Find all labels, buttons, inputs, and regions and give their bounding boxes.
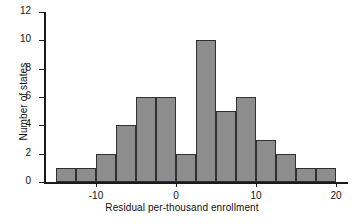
plot-area: 024681012 -1001020 — [44, 12, 348, 184]
y-tick-label: 2 — [25, 147, 31, 158]
y-tick: 0 — [39, 182, 46, 183]
histogram-figure: Number of states 024681012 -1001020 Resi… — [0, 0, 364, 224]
histogram-bar — [96, 154, 116, 182]
x-axis-line — [44, 182, 348, 184]
x-tick — [96, 182, 97, 187]
y-tick-label: 4 — [25, 118, 31, 129]
x-tick — [256, 182, 257, 187]
x-tick-label: -10 — [89, 190, 103, 201]
y-tick: 4 — [39, 125, 46, 126]
histogram-bar — [316, 168, 336, 182]
histogram-bar — [116, 125, 136, 182]
x-tick-label: 0 — [173, 190, 179, 201]
histogram-bar — [136, 97, 156, 182]
y-tick: 12 — [39, 12, 46, 13]
histogram-bar — [236, 97, 256, 182]
histogram-bar — [56, 168, 76, 182]
y-tick-label: 10 — [20, 33, 31, 44]
y-tick-label: 0 — [25, 175, 31, 186]
histogram-bar — [156, 97, 176, 182]
x-tick-label: 20 — [330, 190, 341, 201]
y-tick-label: 12 — [20, 5, 31, 16]
histogram-bar — [176, 154, 196, 182]
histogram-bar — [76, 168, 96, 182]
histogram-bar — [216, 111, 236, 182]
y-tick: 10 — [39, 40, 46, 41]
y-tick: 2 — [39, 154, 46, 155]
x-tick — [176, 182, 177, 187]
y-tick-label: 6 — [25, 90, 31, 101]
histogram-bar — [196, 40, 216, 182]
x-tick — [336, 182, 337, 187]
histogram-bar — [296, 168, 316, 182]
histogram-bar — [276, 154, 296, 182]
y-tick: 8 — [39, 69, 46, 70]
x-axis-label: Residual per-thousand enrollment — [0, 202, 364, 213]
x-tick-label: 10 — [250, 190, 261, 201]
histogram-bar — [256, 140, 276, 183]
y-tick: 6 — [39, 97, 46, 98]
y-tick-label: 8 — [25, 62, 31, 73]
